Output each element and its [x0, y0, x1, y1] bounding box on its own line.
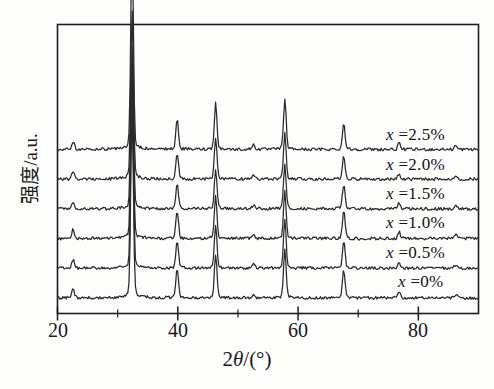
series-label-x-2p5: x =2.5% [386, 125, 445, 145]
series-label-x-2p0: x =2.0% [386, 155, 445, 175]
series-label-x-1p5: x =1.5% [386, 184, 445, 204]
xrd-figure: 20 40 60 80 2θ/(°) 强度/a.u. x =2.5% x =2.… [0, 0, 494, 389]
x-tick-label-40: 40 [158, 319, 198, 342]
series-label-x-0: x =0% [398, 272, 444, 292]
x-axis-title: 2θ/(°) [0, 347, 494, 372]
x-tick-label-60: 60 [278, 319, 318, 342]
series-label-x-0p5: x =0.5% [386, 243, 445, 263]
series-label-x-1p0: x =1.0% [386, 213, 445, 233]
x-tick-label-80: 80 [398, 319, 438, 342]
y-axis-title: 强度/a.u. [15, 79, 42, 259]
x-tick-label-20: 20 [38, 319, 78, 342]
